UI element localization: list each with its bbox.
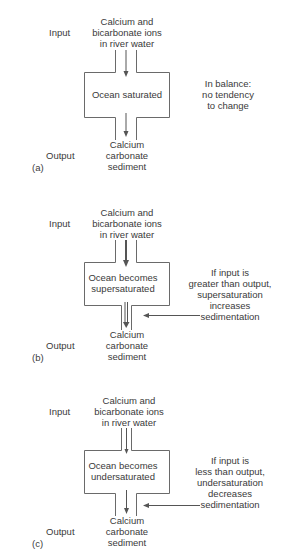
output-flow-arrow: [124, 113, 129, 137]
input-flow-arrow: [123, 240, 129, 267]
output-label: Output: [46, 340, 75, 351]
input-source-text: Calcium and bicarbonate ions in river wa…: [92, 16, 162, 49]
undersaturation-note: If input is less than output, undersatur…: [195, 455, 265, 510]
panel-label: (a): [32, 162, 44, 173]
output-flow-arrow: [124, 490, 129, 514]
ocean-state-text: Ocean becomes undersaturated: [88, 460, 157, 482]
ocean-state-text: Ocean becomes supersaturated: [88, 272, 157, 294]
panel-c: Input Calcium and bicarbonate ions in ri…: [0, 376, 285, 559]
panel-label: (b): [32, 352, 44, 363]
output-sediment-text: Calcium carbonate sediment: [106, 139, 148, 172]
output-flow-arrow: [123, 302, 130, 328]
input-source-text: Calcium and bicarbonate ions in river wa…: [94, 395, 164, 428]
output-label: Output: [46, 526, 75, 537]
input-flow-arrow: [124, 50, 129, 77]
ocean-state-text: Ocean saturated: [92, 89, 162, 100]
balance-note: In balance: no tendency to change: [202, 78, 254, 111]
output-sediment-text: Calcium carbonate sediment: [106, 515, 148, 548]
output-label: Output: [46, 150, 75, 161]
output-sediment-text: Calcium carbonate sediment: [106, 329, 148, 362]
supersaturation-note: If input is greater than output, supersa…: [189, 267, 272, 322]
input-label: Input: [49, 27, 70, 38]
panel-b: Input Calcium and bicarbonate ions in ri…: [0, 188, 285, 376]
panel-a: Input Calcium and bicarbonate ions in ri…: [0, 0, 285, 185]
note-pointer-arrow: [143, 503, 200, 508]
input-label: Input: [49, 406, 70, 417]
input-label: Input: [49, 218, 70, 229]
panel-label: (c): [32, 538, 43, 549]
input-source-text: Calcium and bicarbonate ions in river wa…: [92, 207, 162, 240]
input-flow-arrow: [125, 428, 129, 454]
